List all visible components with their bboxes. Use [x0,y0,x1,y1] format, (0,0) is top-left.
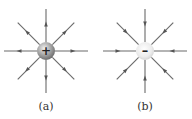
field-line [151,23,173,45]
arrowhead-icon [71,49,76,53]
arrowhead-icon [44,22,48,27]
arrowhead-icon [17,49,22,53]
plus-sign-icon: + [41,44,51,58]
arrowhead-icon [44,76,48,81]
positive-charge-field: + [4,9,88,93]
minus-sign-icon: – [142,43,149,58]
field-line [18,57,40,79]
caption-b: (b) [130,100,160,113]
arrowhead-icon [143,22,147,27]
field-line [117,57,139,79]
field-line [52,57,74,79]
negative-charge-field: – [103,9,187,93]
field-diagram: + – [0,0,192,119]
arrowhead-icon [170,49,175,53]
arrowhead-icon [143,76,147,81]
field-line [151,57,173,79]
caption-a: (a) [31,100,61,113]
arrowhead-icon [116,49,121,53]
